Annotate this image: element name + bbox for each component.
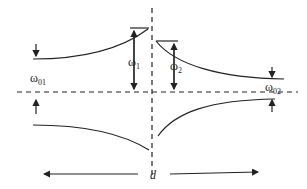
- lower-right-curve: [158, 99, 275, 136]
- d-right-arrow: [170, 172, 258, 174]
- label-d: d: [150, 169, 156, 181]
- lower-left-curve: [33, 125, 149, 150]
- label-omega-01: ω01: [30, 72, 46, 87]
- label-omega-1: ω1: [128, 56, 140, 71]
- diagram-graphics: [0, 0, 307, 189]
- label-omega-02: ω02: [265, 81, 281, 96]
- diagram-canvas: ω01 ω1 ω2 ω02 d: [0, 0, 307, 189]
- label-omega-2: ω2: [170, 60, 182, 75]
